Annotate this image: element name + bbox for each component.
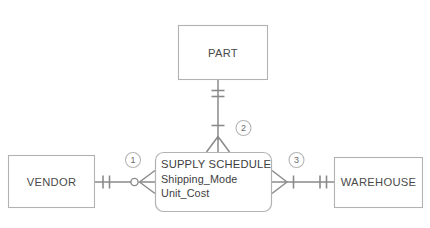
entity-supply-schedule-attribute-unit-cost: Unit_Cost	[161, 187, 209, 199]
cardinality-crowfoot-warehouse	[272, 171, 287, 194]
entity-part[interactable]: PART	[179, 26, 268, 80]
cardinality-crowfoot-part	[207, 137, 230, 153]
entity-warehouse[interactable]: WAREHOUSE	[335, 158, 423, 208]
relationship-badge-1[interactable]: 1	[126, 153, 141, 168]
cardinality-optional-circle-vendor	[131, 178, 138, 185]
relationship-badge-3[interactable]: 3	[289, 153, 304, 168]
relationship-badge-2-label: 2	[241, 123, 246, 133]
connector-part-supply-schedule[interactable]	[207, 80, 230, 152]
relationship-badge-1-label: 1	[130, 155, 135, 165]
entity-vendor-label: VENDOR	[27, 176, 77, 188]
relationship-badge-2[interactable]: 2	[236, 121, 251, 136]
entity-supply-schedule-title: SUPPLY SCHEDULE	[161, 158, 271, 170]
entity-warehouse-label: WAREHOUSE	[341, 176, 417, 188]
entity-supply-schedule[interactable]: SUPPLY SCHEDULE Shipping_Mode Unit_Cost	[156, 153, 272, 212]
cardinality-crowfoot-vendor	[140, 171, 156, 194]
connector-supply-schedule-warehouse[interactable]	[272, 171, 334, 194]
connector-vendor-supply-schedule[interactable]	[95, 171, 155, 194]
relationship-badge-3-label: 3	[294, 155, 299, 165]
entity-supply-schedule-attribute-shipping-mode: Shipping_Mode	[161, 173, 237, 185]
entity-part-label: PART	[208, 47, 238, 59]
entity-vendor[interactable]: VENDOR	[9, 156, 95, 208]
er-diagram-canvas: PART VENDOR WAREHOUSE SUPPLY SCHEDULE Sh…	[0, 0, 430, 228]
